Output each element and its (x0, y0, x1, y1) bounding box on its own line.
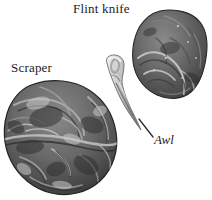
artifact-scraper (0, 77, 125, 199)
figure-flint-tools: Flint knife Scraper Awl (0, 0, 212, 200)
label-awl: Awl (154, 133, 174, 146)
label-scraper: Scraper (11, 61, 52, 74)
label-flint-knife: Flint knife (73, 2, 130, 15)
